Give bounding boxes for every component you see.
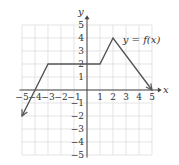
y-tick-label: −2 (71, 111, 84, 121)
y-tick-label: −1 (71, 98, 84, 108)
x-tick-label: 1 (97, 92, 103, 102)
y-axis-label: y (77, 6, 84, 17)
y-tick-label: −3 (71, 124, 85, 134)
y-tick-label: −5 (71, 150, 85, 160)
curve-label: y = f(x) (122, 34, 161, 45)
x-tick-label: −2 (54, 92, 67, 102)
y-tick-label: 1 (78, 72, 84, 82)
x-tick-label: 4 (136, 92, 142, 102)
x-tick-label: 2 (110, 92, 116, 102)
y-tick-label: −4 (71, 137, 85, 147)
x-tick-label: 3 (123, 92, 129, 102)
function-graph: −5−4−3−2−11234554321−1−2−3−4−5 x y y = f… (0, 0, 179, 165)
y-tick-label: 3 (78, 46, 84, 56)
y-tick-label: 4 (78, 33, 84, 43)
x-tick-label: −3 (41, 92, 55, 102)
x-axis-label: x (163, 84, 169, 95)
x-tick-label: 5 (149, 92, 155, 102)
y-tick-label: 5 (78, 20, 84, 30)
x-tick-label: −5 (15, 92, 29, 102)
